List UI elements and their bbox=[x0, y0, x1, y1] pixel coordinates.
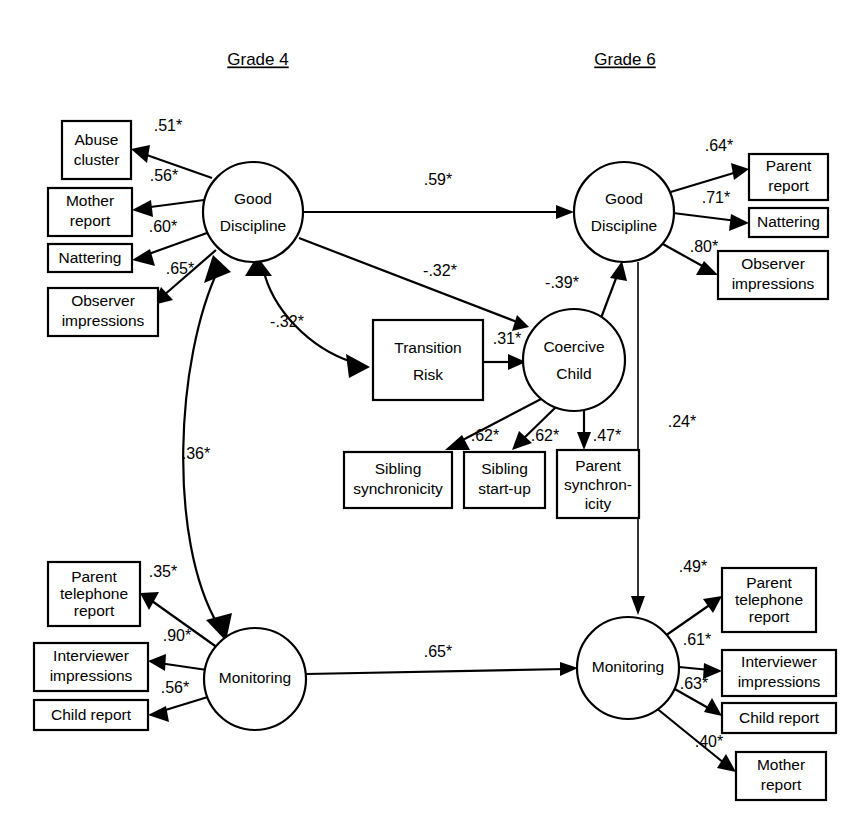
observed-label-child-report-4: Child report bbox=[51, 706, 132, 723]
observed-label-abuse-cluster-line-1: Abuse bbox=[75, 131, 119, 148]
latent-label-mon4: Monitoring bbox=[219, 669, 291, 686]
coefficient-gd4-coercive-child: -.32* bbox=[423, 262, 457, 279]
coefficient-mon4-parent-telephone-report: .35* bbox=[149, 563, 177, 580]
observed-label-nattering-4: Nattering bbox=[59, 249, 122, 266]
observed-label-parent-phone-6-line-2: telephone bbox=[735, 591, 803, 608]
observed-label-mother-report-6-line-2: report bbox=[761, 776, 802, 793]
edge-mon4-child-report bbox=[148, 696, 211, 722]
observed-box-parent-report-grade6: Parent report bbox=[749, 154, 828, 200]
coefficient-gd4-nattering: .60* bbox=[149, 218, 177, 235]
observed-label-sibling-startup-line-1: Sibling bbox=[481, 460, 528, 477]
coefficient-mon4-interviewer-impressions: .90* bbox=[163, 627, 191, 644]
latent-label-cc-line-2: Child bbox=[556, 365, 591, 382]
coefficient-transition-risk-coercive-child: .31* bbox=[493, 330, 521, 347]
edge-gd6-mon6 bbox=[631, 262, 645, 615]
latent-label-gd4-line-1: Good bbox=[234, 190, 272, 207]
observed-label-parent-phone-6-line-1: Parent bbox=[746, 574, 792, 591]
observed-label-parent-synchronicity-line-3: icity bbox=[585, 495, 612, 512]
observed-label-observer-impressions-4-line-1: Observer bbox=[71, 292, 135, 309]
observed-label-parent-phone-4-line-3: report bbox=[74, 602, 115, 619]
edge-mon4-mon6 bbox=[306, 662, 578, 676]
edge-cc-parent-synchronicity bbox=[577, 411, 591, 450]
observed-label-mother-report-4-line-1: Mother bbox=[66, 192, 114, 209]
observed-label-parent-report-6-line-2: report bbox=[768, 177, 809, 194]
coefficient-gd6-observer-impressions: .80* bbox=[690, 238, 718, 255]
observed-box-parent-telephone-report-grade4: Parent telephone report bbox=[48, 562, 140, 626]
observed-label-sibling-startup-line-2: start-up bbox=[478, 480, 531, 497]
observed-label-transition-risk-line-2: Risk bbox=[413, 366, 443, 383]
coefficient-gd6-nattering: .71* bbox=[702, 189, 730, 206]
coefficient-mon4-mon6: .65* bbox=[424, 643, 452, 660]
observed-label-transition-risk-line-1: Transition bbox=[394, 339, 461, 356]
group-title-grade-4: Grade 4 bbox=[227, 50, 288, 69]
observed-label-interviewer-6-line-2: impressions bbox=[738, 673, 821, 690]
edge-mon6-parent-telephone-report bbox=[665, 596, 722, 636]
observed-box-observer-impressions-grade6: Observer impressions bbox=[718, 251, 828, 299]
observed-box-interviewer-impressions-grade6: Interviewer impressions bbox=[722, 650, 836, 696]
coefficient-mon4-child-report: .56* bbox=[161, 679, 189, 696]
observed-label-parent-report-6-line-1: Parent bbox=[766, 157, 812, 174]
observed-box-observer-impressions-grade4: Observer impressions bbox=[48, 288, 158, 336]
coefficient-gd4-transition-risk: -.32* bbox=[270, 313, 304, 330]
observed-box-transition-risk: Transition Risk bbox=[373, 320, 483, 400]
observed-label-child-report-6: Child report bbox=[739, 709, 820, 726]
observed-label-sibling-synchronicity-line-2: synchronicity bbox=[353, 480, 443, 497]
coefficient-mon6-parent-telephone-report: .49* bbox=[679, 558, 707, 575]
observed-label-sibling-synchronicity-line-1: Sibling bbox=[375, 460, 422, 477]
observed-label-abuse-cluster-line-2: cluster bbox=[74, 151, 120, 168]
observed-box-mother-report-grade4: Mother report bbox=[48, 188, 132, 236]
latent-circle-monitoring-grade4: Monitoring bbox=[204, 628, 306, 730]
latent-label-mon6: Monitoring bbox=[592, 658, 664, 675]
observed-box-sibling-synchronicity: Sibling synchronicity bbox=[344, 452, 452, 508]
edge-gd4-transition-risk bbox=[245, 256, 370, 378]
observed-label-nattering-6: Nattering bbox=[757, 213, 820, 230]
observed-label-mother-report-6-line-1: Mother bbox=[757, 756, 805, 773]
observed-label-parent-synchronicity-line-1: Parent bbox=[575, 457, 621, 474]
latent-circle-coercive-child: Coercive Child bbox=[523, 309, 625, 411]
latent-label-gd4-line-2: Discipline bbox=[220, 217, 286, 234]
coefficient-cc-parent-synchronicity: .47* bbox=[593, 427, 621, 444]
edge-gd4-gd6 bbox=[303, 205, 574, 219]
observed-label-parent-synchronicity-line-2: synchron- bbox=[564, 476, 632, 493]
coefficient-cc-sibling-synchronicity: .62* bbox=[471, 427, 499, 444]
observed-label-observer-impressions-4-line-2: impressions bbox=[62, 312, 145, 329]
coefficient-gd4-observer-impressions: .65* bbox=[166, 260, 194, 277]
edge-gd4-mother-report bbox=[132, 200, 204, 217]
edge-mon4-interviewer-impressions bbox=[148, 654, 207, 671]
latent-label-gd6-line-1: Good bbox=[605, 190, 643, 207]
observed-label-interviewer-4-line-1: Interviewer bbox=[53, 647, 129, 664]
coefficient-mon6-interviewer-impressions: .61* bbox=[683, 631, 711, 648]
coefficient-coercive-child-gd6: -.39* bbox=[545, 274, 579, 291]
coefficient-cc-sibling-startup: .62* bbox=[531, 427, 559, 444]
observed-box-sibling-start-up: Sibling start-up bbox=[464, 452, 545, 508]
observed-box-interviewer-impressions-grade4: Interviewer impressions bbox=[34, 643, 148, 691]
observed-box-nattering-grade6: Nattering bbox=[749, 208, 828, 237]
coefficient-mon6-mother-report: .40* bbox=[695, 733, 723, 750]
latent-label-gd6-line-2: Discipline bbox=[591, 217, 657, 234]
observed-label-observer-impressions-6-line-2: impressions bbox=[732, 275, 815, 292]
observed-box-child-report-grade6: Child report bbox=[722, 703, 836, 733]
observed-box-abuse-cluster: Abuse cluster bbox=[62, 121, 131, 179]
observed-box-parent-telephone-report-grade6: Parent telephone report bbox=[722, 568, 816, 632]
latent-circle-good-discipline-grade6: Good Discipline bbox=[574, 162, 674, 262]
latent-label-cc-line-1: Coercive bbox=[543, 338, 604, 355]
coefficient-mon6-child-report: .63* bbox=[680, 675, 708, 692]
observed-box-parent-synchronicity: Parent synchron- icity bbox=[557, 450, 639, 518]
coefficient-gd4-abuse-cluster: .51* bbox=[154, 117, 182, 134]
group-title-grade-6: Grade 6 bbox=[594, 50, 655, 69]
edge-transition-risk-coercive-child bbox=[483, 354, 526, 370]
edge-gd6-nattering-6 bbox=[673, 213, 749, 231]
coefficient-gd4-mon4-correlation: .36* bbox=[182, 445, 210, 462]
latent-circle-monitoring-grade6: Monitoring bbox=[577, 617, 679, 719]
observed-label-interviewer-6-line-1: Interviewer bbox=[741, 653, 817, 670]
observed-box-mother-report-grade6: Mother report bbox=[736, 752, 826, 800]
coefficient-gd4-gd6: .59* bbox=[424, 171, 452, 188]
observed-label-parent-phone-4-line-1: Parent bbox=[71, 568, 117, 585]
observed-label-observer-impressions-6-line-1: Observer bbox=[741, 255, 805, 272]
observed-label-parent-phone-4-line-2: telephone bbox=[60, 585, 128, 602]
latent-circle-good-discipline-grade4: Good Discipline bbox=[203, 162, 303, 262]
diagram-svg: Grade 4 Grade 6 bbox=[0, 0, 843, 824]
coefficient-gd4-mother-report: .56* bbox=[150, 167, 178, 184]
observed-box-child-report-grade4: Child report bbox=[34, 700, 148, 730]
path-diagram-canvas: Grade 4 Grade 6 bbox=[0, 0, 843, 824]
